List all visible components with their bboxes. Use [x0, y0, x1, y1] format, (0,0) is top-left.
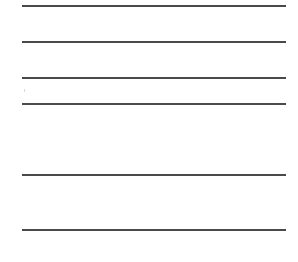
ruled-line-6 — [22, 229, 286, 231]
ruled-line-2 — [22, 41, 286, 43]
scan-speck — [24, 89, 25, 92]
ruled-line-5 — [22, 174, 286, 176]
ruled-line-4 — [22, 103, 286, 105]
ruled-line-1 — [22, 5, 286, 7]
ruled-line-3 — [22, 77, 286, 79]
blank-ruled-page — [0, 0, 298, 262]
